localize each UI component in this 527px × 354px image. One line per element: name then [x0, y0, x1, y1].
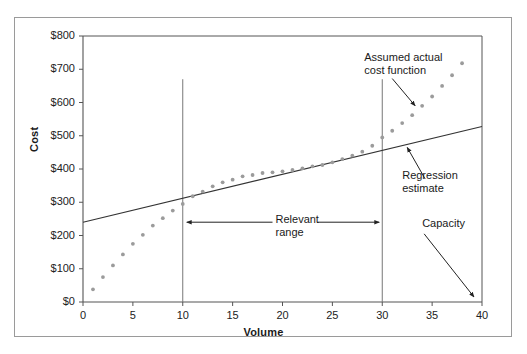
- annotation-relevant-line1: Relevant: [276, 213, 319, 226]
- x-tick-label: 25: [312, 309, 352, 321]
- y-tick-label: $700: [27, 62, 75, 74]
- scatter-point: [370, 144, 374, 148]
- scatter-point: [430, 95, 434, 99]
- annotation-relevant-line2: range: [276, 226, 319, 239]
- x-tick-label: 35: [412, 309, 452, 321]
- scatter-point: [241, 174, 245, 178]
- scatter-point: [191, 194, 195, 198]
- scatter-point: [271, 170, 275, 174]
- scatter-point: [221, 180, 225, 184]
- scatter-point: [450, 73, 454, 77]
- annotation-regression-line2: estimate: [402, 182, 458, 195]
- y-tick-label: $100: [27, 262, 75, 274]
- annotation-capacity: Capacity: [422, 217, 465, 230]
- scatter-point: [380, 136, 384, 140]
- scatter-point: [281, 169, 285, 173]
- annotation-assumed-line1: Assumed actual: [364, 51, 442, 64]
- y-tick-label: $500: [27, 129, 75, 141]
- y-tick-label: $0: [27, 295, 75, 307]
- x-axis-title: Volume: [0, 326, 527, 338]
- x-tick-label: 15: [213, 309, 253, 321]
- scatter-point: [360, 150, 364, 154]
- y-tick-label: $400: [27, 162, 75, 174]
- annotation-regression-estimate: Regression estimate: [402, 169, 458, 195]
- scatter-point: [340, 157, 344, 161]
- annotation-regression-line1: Regression: [402, 169, 458, 182]
- annotation-capacity-line1: Capacity: [422, 217, 465, 230]
- scatter-point: [410, 113, 414, 117]
- scatter-point: [181, 202, 185, 206]
- scatter-point: [301, 166, 305, 170]
- scatter-point: [171, 209, 175, 213]
- scatter-point: [460, 61, 464, 65]
- scatter-point: [91, 287, 95, 291]
- annotation-assumed-line2: cost function: [364, 64, 442, 77]
- y-tick-label: $300: [27, 195, 75, 207]
- scatter-point: [131, 242, 135, 246]
- x-tick-label: 10: [163, 309, 203, 321]
- y-tick-label: $600: [27, 96, 75, 108]
- x-tick-label: 5: [113, 309, 153, 321]
- x-tick-label: 40: [462, 309, 502, 321]
- scatter-point: [141, 233, 145, 237]
- scatter-point: [231, 178, 235, 182]
- scatter-point: [121, 253, 125, 257]
- scatter-point: [420, 104, 424, 108]
- scatter-point: [261, 171, 265, 175]
- x-tick-label: 20: [263, 309, 303, 321]
- scatter-point: [311, 164, 315, 168]
- scatter-point: [211, 184, 215, 188]
- x-tick-label: 30: [362, 309, 402, 321]
- scatter-point: [161, 216, 165, 220]
- annotation-assumed-actual-cost-function: Assumed actual cost function: [364, 51, 442, 77]
- scatter-point: [350, 154, 354, 158]
- scatter-point: [321, 163, 325, 167]
- scatter-point: [390, 129, 394, 133]
- scatter-point: [440, 84, 444, 88]
- scatter-point: [251, 173, 255, 177]
- arrow-capacity: [424, 234, 474, 297]
- arrow-assumed-actual: [392, 79, 415, 106]
- scatter-point: [201, 190, 205, 194]
- cost-function-chart-figure: Cost Volume $0$100$200$300$400$500$600$7…: [0, 0, 527, 354]
- scatter-point: [151, 224, 155, 228]
- scatter-point: [330, 160, 334, 164]
- scatter-point: [111, 264, 115, 268]
- y-tick-label: $800: [27, 29, 75, 41]
- y-tick-label: $200: [27, 229, 75, 241]
- scatter-point: [101, 275, 105, 279]
- scatter-point: [291, 168, 295, 172]
- x-tick-label: 0: [63, 309, 103, 321]
- annotation-relevant-range: Relevant range: [276, 213, 319, 239]
- scatter-point: [400, 121, 404, 125]
